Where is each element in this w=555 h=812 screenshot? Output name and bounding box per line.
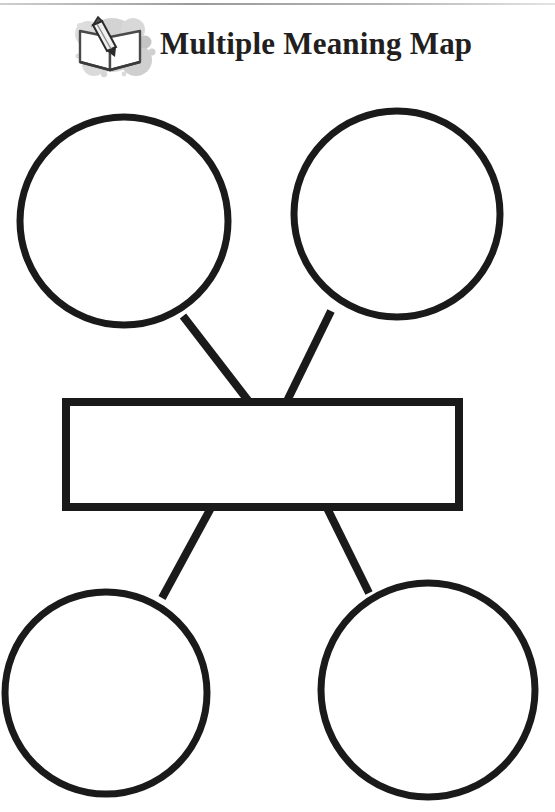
multiple-meaning-map-diagram — [0, 0, 555, 812]
meaning-circle-bottom-right[interactable] — [321, 583, 535, 797]
worksheet-page: Multiple Meaning Map — [0, 0, 555, 812]
connector-bottom-left — [162, 506, 212, 598]
connector-top-right — [286, 311, 331, 403]
meaning-circle-top-left[interactable] — [20, 117, 228, 325]
meaning-circle-bottom-left[interactable] — [5, 592, 207, 794]
word-box[interactable] — [66, 402, 459, 507]
connector-top-left — [183, 316, 250, 403]
meaning-circle-top-right[interactable] — [294, 111, 500, 317]
connector-bottom-right — [326, 506, 369, 593]
